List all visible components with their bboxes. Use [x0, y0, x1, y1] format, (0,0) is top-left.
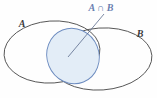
label-set-a: A — [18, 18, 26, 29]
label-intersection: A ∩ B — [88, 2, 114, 13]
venn-diagram-canvas: A B A ∩ B — [0, 0, 157, 98]
label-set-b: B — [136, 28, 144, 39]
venn-diagram-figure: A B A ∩ B — [0, 0, 157, 98]
intersection-region — [38, 20, 107, 91]
